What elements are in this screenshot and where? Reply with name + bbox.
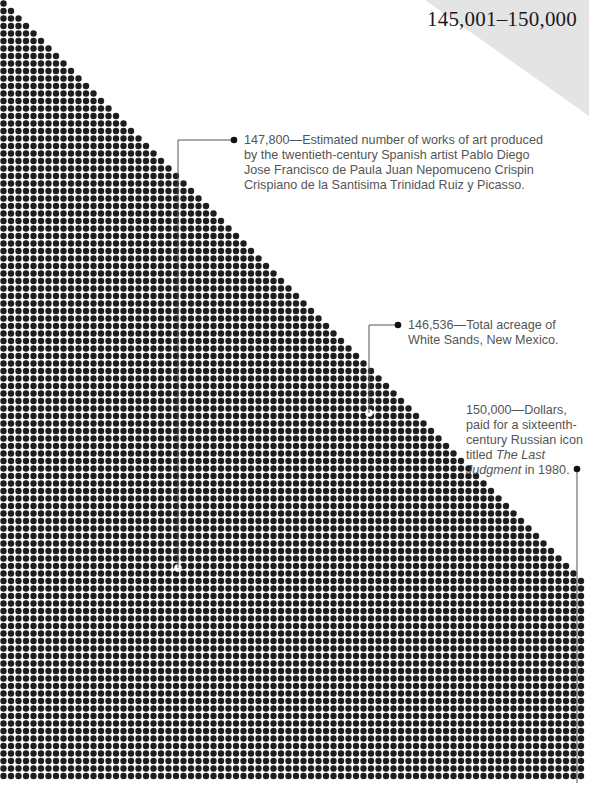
annotation-value: 150,000 (466, 403, 512, 417)
annotation-value: 147,800 (244, 133, 290, 147)
annotation-picasso: 147,800—Estimated number of works of art… (244, 133, 544, 193)
range-label: 145,001–150,000 (427, 7, 577, 32)
annotation-white-sands: 146,536—Total acreage of White Sands, Ne… (408, 318, 588, 348)
annotation-russian-icon: 150,000—Dollars, paid for a sixteenth-ce… (466, 403, 586, 478)
annotation-value: 146,536 (408, 318, 454, 332)
dot-grid (0, 0, 589, 788)
